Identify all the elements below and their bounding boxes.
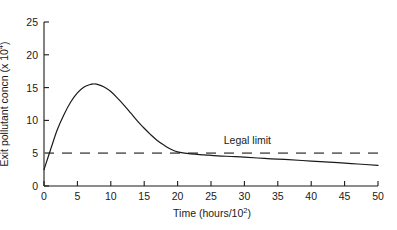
x-tick-label: 20: [172, 191, 184, 202]
x-tick-label: 35: [272, 191, 284, 202]
y-axis-title-exponent: 4: [0, 45, 5, 49]
x-tick-label: 10: [105, 191, 117, 202]
y-axis-title: Exit pollutant concn (x 104): [0, 19, 9, 189]
x-tick-label: 50: [372, 191, 384, 202]
y-axis-title-suffix: ): [0, 42, 10, 46]
x-tick-label: 15: [138, 191, 150, 202]
x-tick-label: 25: [205, 191, 217, 202]
x-tick-label: 0: [41, 191, 47, 202]
x-tick-label: 30: [239, 191, 251, 202]
x-tick-label: 45: [339, 191, 351, 202]
chart-figure: 0510152025 05101520253035404550 Exit pol…: [0, 0, 397, 230]
x-axis-title-text: Time (hours/10: [173, 207, 243, 219]
x-tick-label: 40: [305, 191, 317, 202]
chart-plot-svg: [0, 0, 397, 230]
x-axis-title-suffix: ): [247, 207, 251, 219]
legal-limit-annotation: Legal limit: [224, 135, 271, 146]
pollutant-concentration-curve: [44, 84, 378, 170]
x-axis-ticks: [44, 181, 378, 186]
y-axis-title-text: Exit pollutant concn (x 10: [0, 49, 10, 166]
x-axis-title: Time (hours/102): [173, 208, 251, 219]
x-tick-label: 5: [74, 191, 80, 202]
